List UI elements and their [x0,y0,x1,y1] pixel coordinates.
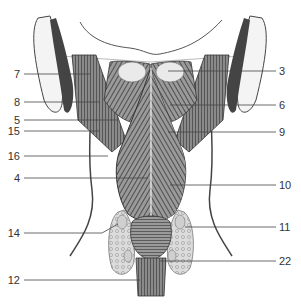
cricopharyngeus [131,216,172,260]
parathyroid-left-upper [117,215,127,229]
label-6: 6 [279,99,285,111]
left-tonsil-bulge [118,62,146,82]
label-15: 15 [0,125,20,137]
label-12: 12 [0,274,20,286]
label-9: 9 [279,126,285,138]
label-10: 10 [279,179,291,191]
parathyroid-left-lower [124,250,132,262]
anatomical-figure [0,0,301,304]
label-22: 22 [279,255,291,267]
label-4: 4 [0,172,20,184]
label-14: 14 [0,227,20,239]
parathyroid-right-upper [175,215,185,229]
right-tonsil-bulge [156,62,184,82]
label-3: 3 [279,65,285,77]
left-mastoid-process [34,16,74,113]
label-8: 8 [0,96,20,108]
label-7: 7 [0,68,20,80]
right-mastoid-process [227,16,267,113]
esophagus [136,258,166,296]
parathyroid-right-lower [168,250,176,262]
label-11: 11 [279,221,290,233]
label-16: 16 [0,150,20,162]
